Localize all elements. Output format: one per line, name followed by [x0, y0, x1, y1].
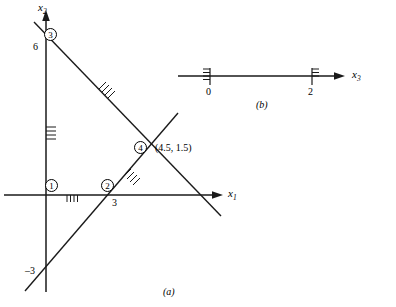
hatch-marks-x3-zero [203, 69, 210, 80]
constraint-line-3 [34, 22, 221, 216]
panel-b-caption: (b) [256, 100, 268, 110]
constraint-marker-4: 4 [134, 141, 147, 154]
hatch-marks-line-3 [99, 82, 115, 98]
tick-label-x3-2: 2 [308, 87, 313, 97]
panel-a-caption: (a) [163, 287, 175, 297]
tick-label-x1-3: 3 [112, 198, 117, 208]
hatch-marks-x1-axis [67, 195, 78, 202]
x1-axis-label: x1 [228, 188, 237, 202]
tick-label-x2-6: 6 [33, 42, 38, 52]
linear-programming-figure: x2 x1 6 3 –3 1 2 3 4 (4.5, 1.5) (a) x3 0… [0, 0, 396, 307]
x2-axis-label: x2 [38, 2, 47, 16]
tick-label-x3-0: 0 [206, 87, 211, 97]
tick-label-x2-neg3: –3 [25, 266, 35, 276]
hatch-marks-x3-two [312, 69, 319, 76]
intersection-point-label: (4.5, 1.5) [155, 143, 192, 153]
constraint-line-2 [25, 113, 178, 291]
constraint-marker-2: 2 [101, 179, 114, 192]
figure-drawing-canvas [0, 0, 396, 307]
constraint-marker-1: 1 [45, 179, 58, 192]
x2-axis [42, 10, 50, 292]
hatch-marks-line-2 [124, 169, 140, 185]
x3-axis-label: x3 [352, 69, 361, 83]
constraint-marker-3: 3 [44, 28, 57, 41]
hatch-marks-x2-axis [46, 127, 56, 139]
